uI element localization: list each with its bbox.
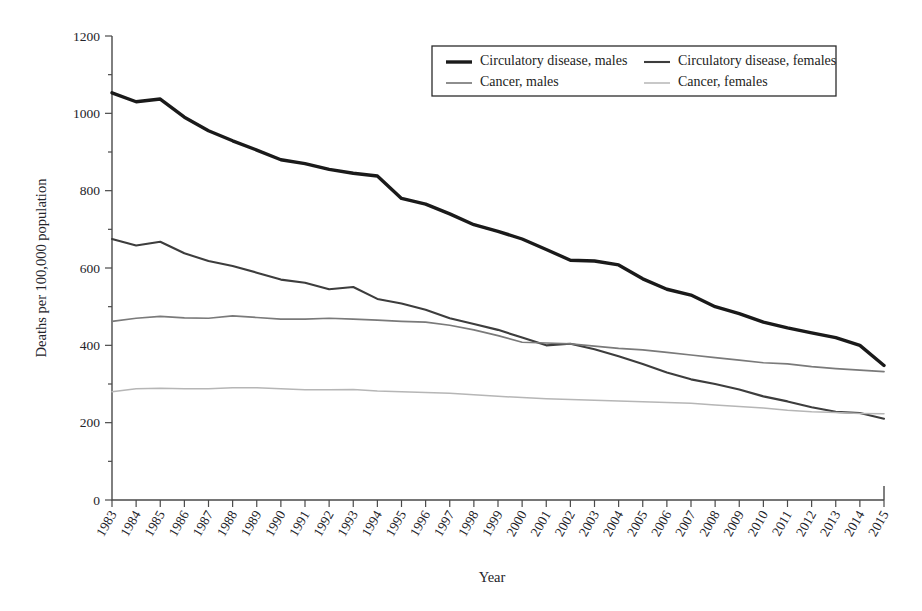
x-tick-label: 1996 bbox=[407, 508, 434, 539]
axis-lines bbox=[112, 36, 884, 500]
legend-label-2: Circulatory disease, females bbox=[678, 53, 836, 68]
legend-label-1: Circulatory disease, males bbox=[480, 53, 627, 68]
x-tick-label: 1990 bbox=[262, 508, 289, 539]
chart-figure: 0200400600800100012001983198419851986198… bbox=[0, 0, 922, 611]
x-tick-label: 2012 bbox=[793, 508, 819, 539]
y-axis-title: Deaths per 100,000 population bbox=[33, 178, 49, 358]
x-axis-title: Year bbox=[479, 569, 506, 585]
x-tick-label: 1995 bbox=[383, 508, 410, 539]
x-tick-label: 1993 bbox=[334, 508, 361, 539]
x-tick-label: 1991 bbox=[286, 508, 312, 539]
x-tick-label: 2009 bbox=[720, 508, 747, 539]
x-tick-label: 2007 bbox=[672, 508, 699, 539]
x-tick-label: 2001 bbox=[527, 508, 553, 539]
x-tick-label: 1997 bbox=[431, 508, 458, 539]
x-tick-label: 2006 bbox=[648, 508, 675, 539]
series-line-2 bbox=[112, 239, 884, 419]
y-tick-label: 200 bbox=[80, 415, 101, 430]
x-tick-label: 1984 bbox=[117, 508, 144, 539]
x-tick-label: 1994 bbox=[358, 508, 385, 539]
x-tick-label: 2003 bbox=[576, 508, 603, 539]
y-tick-label: 1200 bbox=[73, 29, 100, 44]
x-tick-label: 2015 bbox=[865, 508, 892, 539]
x-tick-label: 2002 bbox=[551, 508, 577, 539]
x-tick-label: 2011 bbox=[769, 508, 795, 538]
x-tick-label: 1987 bbox=[190, 508, 217, 539]
x-tick-label: 1985 bbox=[141, 508, 168, 539]
x-tick-label: 2008 bbox=[696, 508, 723, 539]
x-tick-label: 2005 bbox=[624, 508, 651, 539]
y-tick-label: 600 bbox=[80, 261, 101, 276]
x-tick-label: 2000 bbox=[503, 508, 530, 539]
x-tick-label: 1998 bbox=[455, 508, 482, 539]
y-tick-label: 1000 bbox=[73, 106, 100, 121]
x-tick-label: 2010 bbox=[744, 508, 771, 539]
series-line-4 bbox=[112, 388, 884, 414]
x-tick-label: 1989 bbox=[238, 508, 265, 539]
x-tick-label: 1983 bbox=[93, 508, 120, 539]
x-tick-label: 1992 bbox=[310, 508, 336, 539]
y-tick-label: 800 bbox=[80, 183, 101, 198]
y-tick-label: 400 bbox=[80, 338, 101, 353]
legend-label-4: Cancer, females bbox=[678, 74, 768, 89]
x-tick-label: 1986 bbox=[165, 508, 192, 539]
legend-label-3: Cancer, males bbox=[480, 74, 559, 89]
x-tick-label: 1999 bbox=[479, 508, 506, 539]
y-tick-label: 0 bbox=[93, 493, 100, 508]
x-tick-label: 2014 bbox=[841, 508, 868, 539]
line-chart-canvas: 0200400600800100012001983198419851986198… bbox=[0, 0, 922, 611]
series-line-1 bbox=[112, 93, 884, 366]
x-tick-label: 2004 bbox=[600, 508, 627, 539]
x-tick-label: 2013 bbox=[817, 508, 844, 539]
x-tick-label: 1988 bbox=[214, 508, 241, 539]
